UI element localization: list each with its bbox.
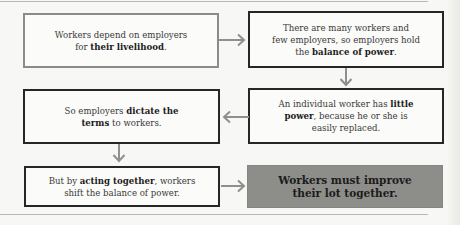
box3-line3: easily replaced. [312,123,380,133]
top-rule [0,1,428,2]
box6-line1: Workers must improve [278,174,411,186]
arrow-down-icon [339,68,353,88]
box-balance-of-power: There are many workers and few employers… [248,11,444,68]
box-acting-together: But by acting together, workers shift th… [24,166,220,207]
box4-bold2: terms [81,118,109,128]
box3-bold2: power [284,111,313,121]
box2-bold: balance of power [312,47,394,57]
arrow-left-icon [221,110,249,124]
box1-line1: Workers depend on employers [55,30,188,40]
arrow-right-icon [221,179,247,193]
page-edge-shadow [448,0,460,225]
box1-bold: their livelihood [90,42,164,52]
box-dictate-terms: So employers dictate the terms to worker… [23,89,220,144]
box4-bold1: dictate the [126,106,178,116]
box2-line1: There are many workers and [283,23,409,33]
box5-line2: shift the balance of power. [64,188,180,198]
box-conclusion: Workers must improve their lot together. [247,165,443,208]
box5-bold: acting together [80,176,155,186]
box-little-power: An individual worker has little power, b… [248,88,444,144]
bottom-rule [0,214,428,215]
arrow-right-icon [219,33,247,47]
arrow-down-icon [112,144,126,164]
box-workers-depend: Workers depend on employers for their li… [23,13,219,68]
box2-line2: few employers, so employers hold [272,35,420,45]
box3-bold1: little [390,99,413,109]
box6-line2: their lot together. [292,187,397,199]
